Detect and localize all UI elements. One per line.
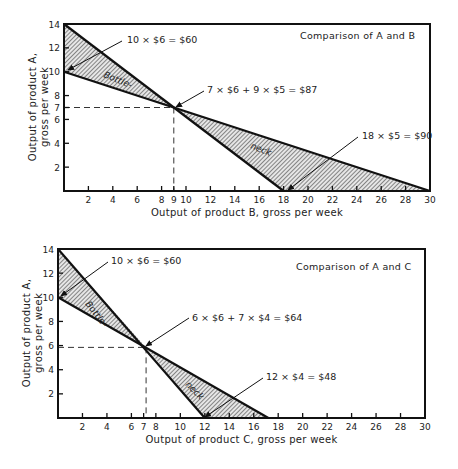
y-axis-label-line-2: gross per week (39, 67, 50, 147)
x-tick-label: 18 (272, 422, 284, 432)
annotation-label: 12 × $4 = $48 (266, 371, 336, 382)
y-tick-label: 6 (48, 341, 54, 351)
y-tick-label: 14 (49, 20, 61, 30)
y-tick-label: 10 (43, 293, 55, 303)
x-tick-label: 2 (80, 422, 86, 432)
y-tick-label: 4 (54, 139, 60, 149)
x-tick-label: 28 (400, 195, 412, 205)
annotation-label: 6 × $6 + 7 × $4 = $64 (192, 312, 302, 323)
y-tick-label: 8 (48, 317, 54, 327)
y-tick-label: 12 (49, 43, 60, 53)
annotation-arrow (146, 318, 189, 346)
annotation-label: 7 × $6 + 9 × $5 = $87 (207, 84, 317, 95)
x-tick-label: 12 (205, 195, 216, 205)
y-axis-label-line-1: Output of product A, (27, 53, 38, 161)
y-tick-label: 14 (43, 245, 55, 255)
y-tick-label: 4 (48, 365, 54, 375)
chart-title: Comparison of A and B (300, 30, 415, 41)
x-tick-label: 16 (253, 195, 265, 205)
x-tick-label: 30 (424, 195, 436, 205)
x-tick-label: 12 (199, 422, 210, 432)
x-tick-label: 8 (159, 195, 165, 205)
x-tick-label: 28 (395, 422, 407, 432)
chart-title: Comparison of A and C (296, 261, 411, 272)
steep-capacity-line (58, 249, 205, 418)
x-tick-label: 26 (375, 195, 387, 205)
x-tick-label: 24 (351, 195, 363, 205)
x-tick-label: 26 (370, 422, 382, 432)
x-tick-label: 30 (419, 422, 431, 432)
x-tick-label: 20 (302, 195, 314, 205)
x-tick-label: 14 (224, 422, 236, 432)
x-tick-label: 6 (134, 195, 140, 205)
x-axis-label: Output of product B, gross per week (151, 207, 343, 218)
x-tick-label: 14 (229, 195, 241, 205)
x-tick-label: 6 (129, 422, 135, 432)
annotation-arrow (176, 91, 204, 107)
annotation-label: 10 × $6 = $60 (127, 34, 197, 45)
y-axis-label: Output of product A,gross per week (21, 279, 44, 387)
y-axis-label-line-2: gross per week (33, 293, 44, 373)
x-tick-label: 9 (171, 195, 177, 205)
x-axis-label: Output of product C, gross per week (145, 434, 337, 445)
y-tick-label: 6 (54, 115, 60, 125)
x-tick-label: 22 (321, 422, 332, 432)
y-tick-label: 12 (43, 269, 54, 279)
x-tick-label: 2 (86, 195, 92, 205)
charts-canvas: 24689101214161820222426283024678101214Ou… (0, 0, 458, 469)
x-tick-label: 7 (141, 422, 147, 432)
annotation-label: 10 × $6 = $60 (111, 255, 181, 266)
y-axis-label-line-1: Output of product A, (21, 279, 32, 387)
x-tick-label: 18 (278, 195, 290, 205)
chart-a-vs-b: 24689101214161820222426283024678101214Ou… (27, 20, 436, 219)
x-tick-label: 16 (248, 422, 260, 432)
x-tick-label: 10 (175, 422, 187, 432)
x-tick-label: 8 (153, 422, 159, 432)
y-tick-label: 7 (54, 103, 60, 113)
y-tick-label: 2 (48, 389, 54, 399)
chart-a-vs-c: 2467810121416182022242628302468101214Out… (21, 245, 431, 446)
x-tick-label: 22 (327, 195, 338, 205)
y-tick-label: 10 (49, 67, 61, 77)
y-tick-label: 8 (54, 91, 60, 101)
x-tick-label: 24 (346, 422, 358, 432)
x-tick-label: 20 (297, 422, 309, 432)
x-tick-label: 4 (104, 422, 110, 432)
x-tick-label: 10 (180, 195, 192, 205)
annotation-label: 18 × $5 = $90 (362, 130, 432, 141)
y-axis-label: Output of product A,gross per week (27, 53, 50, 161)
x-tick-label: 4 (110, 195, 116, 205)
y-tick-label: 2 (54, 163, 60, 173)
